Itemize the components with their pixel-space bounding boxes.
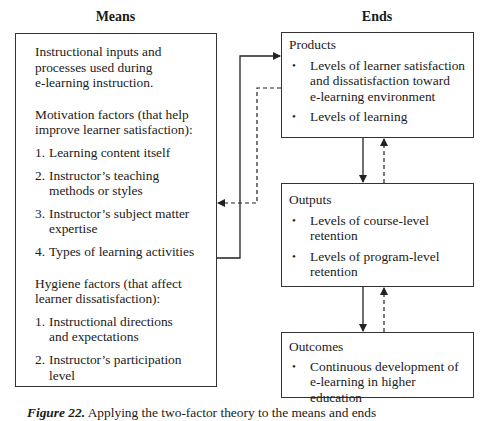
text-line: Levels of learning <box>310 109 407 125</box>
ends-heading: Ends <box>281 9 473 25</box>
bullet-icon: • <box>289 213 310 244</box>
means-to-products-arrow <box>217 56 280 258</box>
figure-caption-text: Applying the two-factor theory to the me… <box>88 405 377 420</box>
products-to-means-feedback-arrow <box>218 88 281 203</box>
text-line: Instructor’s teaching <box>49 168 159 184</box>
text-line: Instructional directions <box>49 314 173 330</box>
motivation-item: 2. Instructor’s teaching methods or styl… <box>35 168 208 199</box>
text-line: Continuous development of <box>310 359 467 375</box>
text-line: Motivation factors (that help <box>35 107 208 123</box>
text-line: Instructor’s subject matter <box>49 206 189 222</box>
text-line: processes used during <box>35 60 208 76</box>
text-line: Levels of course-level <box>310 213 429 229</box>
outputs-bullet: • Levels of course-level retention <box>289 213 467 244</box>
outcomes-list: • Continuous development of e-learning i… <box>289 359 467 406</box>
means-heading: Means <box>15 9 216 25</box>
outcomes-bullet: • Continuous development of e-learning i… <box>289 359 467 406</box>
products-bullet: • Levels of learning <box>289 109 467 125</box>
figure-caption: Figure 22. Applying the two-factor theor… <box>27 405 376 421</box>
bullet-icon: • <box>289 359 310 406</box>
text-line: Levels of learner satisfaction <box>310 58 465 74</box>
motivation-item: 4. Types of learning activities <box>35 244 208 260</box>
hygiene-item: 2. Instructor’s participation level <box>35 352 208 383</box>
motivation-item: 1. Learning content itself <box>35 145 208 161</box>
outcomes-title: Outcomes <box>289 339 467 355</box>
text-line: level <box>49 368 182 384</box>
outputs-title: Outputs <box>289 192 467 208</box>
item-number: 1. <box>35 314 49 345</box>
bullet-icon: • <box>289 249 310 280</box>
text-line: e-learning in higher education <box>310 374 467 405</box>
text-line: methods or styles <box>49 183 159 199</box>
hygiene-title: Hygiene factors (that affect learner dis… <box>35 276 208 307</box>
bullet-icon: • <box>289 109 310 125</box>
text-line: and dissatisfaction toward <box>310 73 465 89</box>
item-number: 3. <box>35 206 49 237</box>
motivation-list: 1. Learning content itself 2. Instructor… <box>35 145 208 260</box>
item-number: 2. <box>35 168 49 199</box>
text-line: improve learner satisfaction): <box>35 122 208 138</box>
outputs-list: • Levels of course-level retention • Lev… <box>289 213 467 280</box>
products-title: Products <box>289 37 467 53</box>
hygiene-item: 1. Instructional directions and expectat… <box>35 314 208 345</box>
outcomes-box: Outcomes • Continuous development of e-l… <box>281 332 474 398</box>
text-line: e-learning instruction. <box>35 75 208 91</box>
outputs-box: Outputs • Levels of course-level retenti… <box>281 183 474 287</box>
text-line: expertise <box>49 221 189 237</box>
products-bullet: • Levels of learner satisfaction and dis… <box>289 58 467 105</box>
motivation-title: Motivation factors (that help improve le… <box>35 107 208 138</box>
text-line: Instructor’s participation <box>49 352 182 368</box>
outputs-bullet: • Levels of program-level retention <box>289 249 467 280</box>
bullet-icon: • <box>289 58 310 105</box>
text-line: Hygiene factors (that affect <box>35 276 208 292</box>
products-box: Products • Levels of learner satisfactio… <box>281 32 474 138</box>
text-line: Types of learning activities <box>49 244 194 260</box>
products-list: • Levels of learner satisfaction and dis… <box>289 58 467 125</box>
text-line: Levels of program-level <box>310 249 439 265</box>
means-box: Instructional inputs and processes used … <box>15 33 217 387</box>
item-number: 4. <box>35 244 49 260</box>
text-line: learner dissatisfaction): <box>35 291 208 307</box>
item-number: 1. <box>35 145 49 161</box>
means-intro: Instructional inputs and processes used … <box>35 44 208 91</box>
text-line: Learning content itself <box>49 145 170 161</box>
figure-label: Figure 22. <box>27 405 85 420</box>
text-line: e-learning environment <box>310 89 465 105</box>
text-line: and expectations <box>49 329 173 345</box>
text-line: retention <box>310 264 439 280</box>
item-number: 2. <box>35 352 49 383</box>
motivation-item: 3. Instructor’s subject matter expertise <box>35 206 208 237</box>
text-line: Instructional inputs and <box>35 44 208 60</box>
hygiene-list: 1. Instructional directions and expectat… <box>35 314 208 383</box>
text-line: retention <box>310 228 429 244</box>
